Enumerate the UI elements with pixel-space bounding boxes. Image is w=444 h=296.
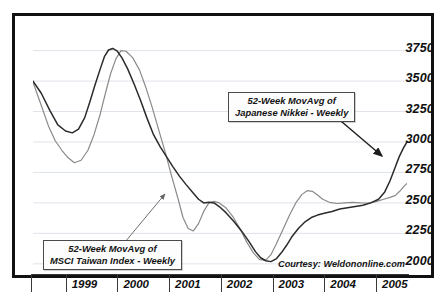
x-axis-tick-1999: 1999	[66, 275, 118, 292]
x-axis-tick-label: 2004	[325, 278, 356, 290]
x-axis-tick-label: 1999	[67, 278, 98, 290]
x-axis-tick-label: 2001	[170, 278, 201, 290]
annotation-taiwan-line2: MSCI Taiwan Index - Weekly	[50, 255, 175, 267]
x-axis-tick-2001: 2001	[169, 275, 221, 292]
series-line-taiwan	[33, 51, 407, 261]
annotation-nikkei: 52-Week MovAvg of Japanese Nikkei - Week…	[228, 92, 355, 122]
series-line-nikkei	[33, 48, 407, 261]
y-axis-tick-2250: 2250	[405, 223, 434, 237]
annotation-taiwan: 52-Week MovAvg of MSCI Taiwan Index - We…	[43, 240, 182, 270]
y-axis-tick-2500: 2500	[405, 193, 434, 207]
x-axis-tick-2002: 2002	[221, 275, 273, 292]
annotation-nikkei-line1: 52-Week MovAvg of	[235, 95, 348, 107]
annotation-arrow-taiwan	[125, 194, 165, 242]
x-axis-tick-label: 2005	[377, 278, 408, 290]
x-axis-tick-label: 2000	[118, 278, 149, 290]
y-axis-tick-3500: 3500	[405, 71, 434, 85]
x-axis-tick-leading	[31, 275, 66, 292]
chart-figure: 1999200020012002200320042005 52-Week Mov…	[0, 0, 444, 296]
y-axis-tick-3000: 3000	[405, 132, 434, 146]
annotation-nikkei-line2: Japanese Nikkei - Weekly	[235, 107, 348, 119]
x-axis-tick-2004: 2004	[324, 275, 376, 292]
y-axis-tick-3250: 3250	[405, 102, 434, 116]
x-axis-tick-2005: 2005	[376, 275, 409, 292]
y-axis-tick-2000: 2000	[405, 254, 434, 268]
x-axis-tick-2000: 2000	[117, 275, 169, 292]
chart-frame: 1999200020012002200320042005 52-Week Mov…	[12, 13, 434, 278]
x-axis-tick-label: 2002	[222, 278, 253, 290]
courtesy-credit: Courtesy: Weldononline.com	[278, 259, 405, 269]
x-axis-tick-2003: 2003	[273, 275, 325, 292]
annotation-arrow-nikkei	[335, 116, 382, 156]
y-axis-labels: 37503500325030002750250022502000	[396, 16, 444, 266]
annotation-taiwan-line1: 52-Week MovAvg of	[50, 243, 175, 255]
y-axis-tick-3750: 3750	[405, 41, 434, 55]
x-axis-tick-label: 2003	[274, 278, 305, 290]
y-axis-tick-2750: 2750	[405, 162, 434, 176]
x-axis-tick-band: 1999200020012002200320042005	[31, 275, 409, 292]
